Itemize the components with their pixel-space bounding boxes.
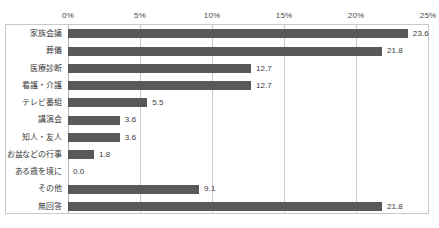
bar-row: 家族会議23.6 xyxy=(0,26,439,42)
bar-row: 看護・介護12.7 xyxy=(0,78,439,94)
category-label: 無回答 xyxy=(0,199,62,215)
x-axis-tick-label: 0% xyxy=(62,10,74,22)
bar-row: 無回答21.8 xyxy=(0,199,439,215)
bar-value-label: 1.8 xyxy=(99,147,110,163)
bar xyxy=(68,116,120,125)
x-axis-tick-labels: 0%5%10%15%20%25% xyxy=(0,10,439,22)
bar-row: 医療診断12.7 xyxy=(0,61,439,77)
x-axis-tick-label: 5% xyxy=(134,10,146,22)
bar xyxy=(68,133,120,142)
bar-row: お盆などの行事1.8 xyxy=(0,147,439,163)
x-axis-tick-label: 25% xyxy=(420,10,436,22)
bar xyxy=(68,64,251,73)
category-label: 看護・介護 xyxy=(0,78,62,94)
bar-chart: 0%5%10%15%20%25% 家族会議23.6葬儀21.8医療診断12.7看… xyxy=(0,0,439,228)
bar xyxy=(68,185,199,194)
x-axis-tick-label: 20% xyxy=(348,10,364,22)
x-axis-tick-label: 15% xyxy=(276,10,292,22)
category-label: その他 xyxy=(0,181,62,197)
bar-row: 葬儀21.8 xyxy=(0,43,439,59)
bar xyxy=(68,150,94,159)
category-label: 知人・友人 xyxy=(0,130,62,146)
x-axis-tick-label: 10% xyxy=(204,10,220,22)
bar-value-label: 5.5 xyxy=(152,95,163,111)
bar-value-label: 9.1 xyxy=(204,181,215,197)
category-label: 医療診断 xyxy=(0,61,62,77)
bar-row: 知人・友人3.6 xyxy=(0,130,439,146)
bar-value-label: 12.7 xyxy=(256,78,272,94)
bar-row: 講演会3.6 xyxy=(0,112,439,128)
bar-row: ある歳を境に0.0 xyxy=(0,164,439,180)
bar-value-label: 21.8 xyxy=(387,43,403,59)
bar-value-label: 3.6 xyxy=(125,130,136,146)
bar xyxy=(68,81,251,90)
bar-value-label: 21.8 xyxy=(387,199,403,215)
bar xyxy=(68,98,147,107)
bar-rows: 家族会議23.6葬儀21.8医療診断12.7看護・介護12.7テレビ番組5.5講… xyxy=(0,24,439,214)
bar-row: テレビ番組5.5 xyxy=(0,95,439,111)
category-label: 葬儀 xyxy=(0,43,62,59)
category-label: 家族会議 xyxy=(0,26,62,42)
bar xyxy=(68,202,382,211)
bar-value-label: 23.6 xyxy=(413,26,429,42)
bar xyxy=(68,47,382,56)
bar xyxy=(68,29,408,38)
category-label: お盆などの行事 xyxy=(0,147,62,163)
category-label: 講演会 xyxy=(0,112,62,128)
bar-value-label: 12.7 xyxy=(256,61,272,77)
bar-row: その他9.1 xyxy=(0,181,439,197)
category-label: ある歳を境に xyxy=(0,164,62,180)
bar-value-label: 0.0 xyxy=(73,164,84,180)
bar-value-label: 3.6 xyxy=(125,112,136,128)
category-label: テレビ番組 xyxy=(0,95,62,111)
